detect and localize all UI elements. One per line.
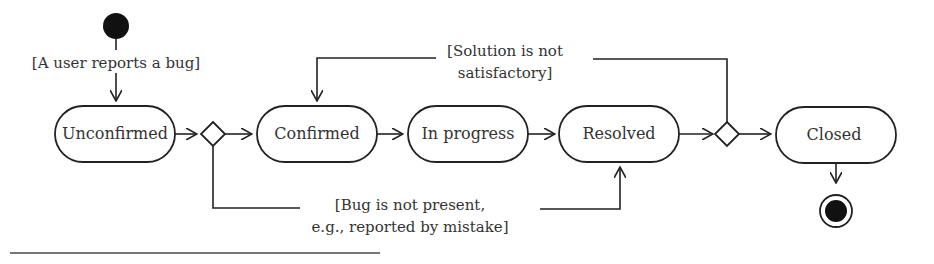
final-node-icon — [820, 195, 852, 227]
state-confirmed: Confirmed — [257, 106, 377, 162]
edge-not-satisfactory-left — [317, 58, 436, 101]
guard-not-present-line1: [Bug is not present, — [335, 196, 485, 214]
guard-not-present-line2: e.g., reported by mistake] — [311, 218, 508, 236]
initial-node-icon — [103, 13, 129, 39]
state-label: Unconfirmed — [62, 124, 168, 143]
state-label: Confirmed — [274, 124, 359, 143]
state-label: Closed — [807, 125, 862, 144]
state-closed: Closed — [776, 107, 896, 163]
activity-diagram: [A user reports a bug] Unconfirmed [Bug … — [0, 0, 934, 264]
guard-not-satisfactory-line1: [Solution is not — [447, 42, 563, 60]
state-in-progress: In progress — [408, 106, 528, 162]
edge-not-present-right — [540, 167, 620, 209]
state-label: Resolved — [582, 124, 655, 143]
state-resolved: Resolved — [559, 106, 679, 162]
state-label: In progress — [421, 124, 514, 143]
guard-initial: [A user reports a bug] — [32, 54, 200, 72]
state-unconfirmed: Unconfirmed — [55, 106, 175, 162]
decision-node-2-icon — [715, 122, 739, 146]
guard-not-satisfactory-line2: satisfactory] — [458, 64, 553, 82]
decision-node-1-icon — [201, 122, 225, 146]
